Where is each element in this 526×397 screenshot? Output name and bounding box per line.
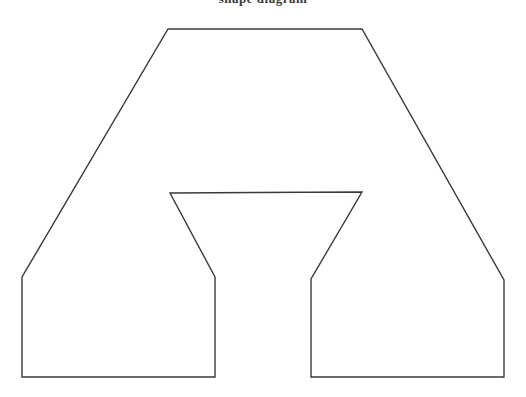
shape-svg: [0, 0, 526, 397]
figure-canvas: shape diagram: [0, 0, 526, 397]
arch-outline-shape: [22, 29, 504, 377]
